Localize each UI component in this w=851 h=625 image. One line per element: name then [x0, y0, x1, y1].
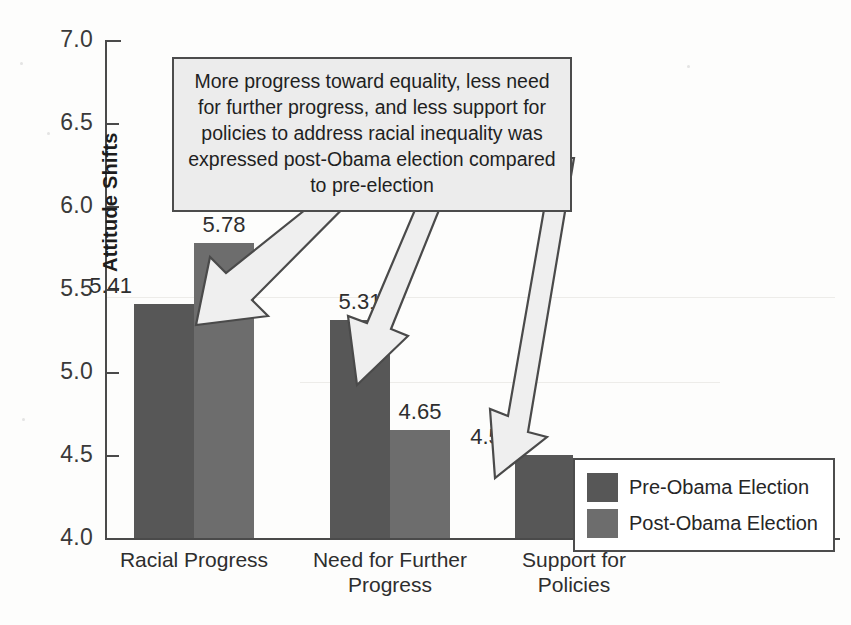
x-category-label-racial-progress: Racial Progress: [97, 548, 291, 573]
x-category-label-support-policies: Support for Policies: [493, 548, 655, 598]
x-category-label-need-further-progress: Need for Further Progress: [295, 548, 485, 598]
y-tick-4-0: 4.0: [105, 538, 119, 540]
y-tick-label: 6.5: [60, 109, 93, 136]
scan-speck: [20, 62, 23, 65]
bar-value-label: 4.65: [399, 399, 442, 425]
y-tick-label: 5.5: [60, 275, 93, 302]
y-tick-label: 4.0: [60, 524, 93, 551]
bar-support-policies-pre[interactable]: 4.50: [515, 455, 573, 538]
y-tick-7-0: 7.0: [105, 40, 119, 42]
bar-racial-progress-post[interactable]: 5.78: [194, 243, 254, 538]
bar-need-further-progress-pre[interactable]: 5.31: [330, 320, 390, 538]
scan-speck: [47, 132, 50, 135]
legend-item-pre-obama[interactable]: Pre-Obama Election: [587, 473, 821, 502]
y-tick-label: 4.5: [60, 441, 93, 468]
legend: Pre-Obama Election Post-Obama Election: [573, 458, 835, 552]
legend-item-post-obama[interactable]: Post-Obama Election: [587, 509, 821, 538]
legend-item-label: Post-Obama Election: [629, 512, 818, 535]
legend-swatch-icon: [587, 473, 618, 502]
bar-racial-progress-pre[interactable]: 5.41: [134, 304, 194, 538]
y-axis-title: Attitude Shifts: [99, 132, 122, 272]
y-tick-4-5: 4.5: [105, 455, 119, 457]
legend-swatch-icon: [587, 509, 618, 538]
bar-value-label: 4.50: [470, 424, 513, 450]
y-tick-label: 6.0: [60, 192, 93, 219]
legend-item-label: Pre-Obama Election: [629, 476, 809, 499]
bar-need-further-progress-post[interactable]: 4.65: [390, 430, 450, 538]
scan-speck: [22, 418, 25, 421]
bar-value-label: 5.31: [339, 289, 382, 315]
bar-value-label: 5.41: [89, 273, 132, 299]
chart-figure: 7.0 6.5 6.0 5.5 5.0 4.5 4.0 5.41 5.78 5.…: [0, 0, 851, 625]
y-tick-label: 5.0: [60, 358, 93, 385]
y-tick-5-0: 5.0: [105, 372, 119, 374]
y-tick-label: 7.0: [60, 26, 93, 53]
y-tick-6-5: 6.5: [105, 123, 119, 125]
bar-value-label: 5.78: [203, 212, 246, 238]
callout-annotation: More progress toward equality, less need…: [172, 57, 572, 212]
